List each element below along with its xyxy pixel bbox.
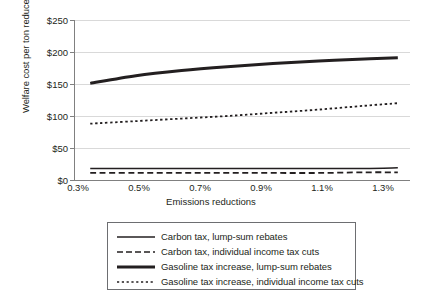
series-line [90, 58, 398, 84]
y-tick-label: $200 [47, 47, 68, 58]
legend-item: Gasoline tax increase, individual income… [108, 274, 355, 289]
legend-line-solid-thick-icon [117, 261, 155, 273]
y-tick-label: $50 [52, 143, 68, 154]
x-tick-label: 1.3% [372, 182, 394, 193]
legend-label: Gasoline tax increase, individual income… [161, 276, 363, 287]
series-line [90, 168, 398, 169]
legend-label: Carbon tax, individual income tax cuts [161, 246, 319, 257]
legend-item: Gasoline tax increase, lump-sum rebates [108, 259, 355, 274]
x-tick-label: 1.1% [311, 182, 333, 193]
legend-line-dashed-icon [117, 246, 155, 258]
legend-label: Gasoline tax increase, lump-sum rebates [161, 261, 332, 272]
y-axis-line [74, 20, 75, 181]
legend-item: Carbon tax, lump-sum rebates [108, 229, 355, 244]
y-axis-tick-labels: $0 $50 $100 $150 $200 $250 [20, 0, 68, 180]
legend-line-solid-thin-icon [117, 231, 155, 243]
x-tick-label: 0.9% [250, 182, 272, 193]
x-axis-line [74, 180, 410, 181]
y-tick-label: $100 [47, 111, 68, 122]
chart-figure: Welfare cost per ton reduced $0 $50 $100… [0, 0, 422, 304]
x-tick-label: 0.5% [128, 182, 150, 193]
plot-canvas [75, 20, 410, 180]
series-line [90, 103, 398, 123]
series-lines [75, 20, 410, 180]
y-tick-label: $150 [47, 79, 68, 90]
x-tick-label: 0.3% [67, 182, 89, 193]
legend-item: Carbon tax, individual income tax cuts [108, 244, 355, 259]
x-tick-label: 0.7% [189, 182, 211, 193]
y-tick-label: $250 [47, 15, 68, 26]
legend-line-dotted-icon [117, 276, 155, 288]
chart-plot-region: Welfare cost per ton reduced $0 $50 $100… [0, 0, 422, 212]
x-axis-title: Emissions reductions [0, 196, 422, 207]
legend-label: Carbon tax, lump-sum rebates [161, 231, 287, 242]
series-line [90, 172, 398, 173]
chart-legend: Carbon tax, lump-sum rebates Carbon tax,… [107, 222, 356, 290]
